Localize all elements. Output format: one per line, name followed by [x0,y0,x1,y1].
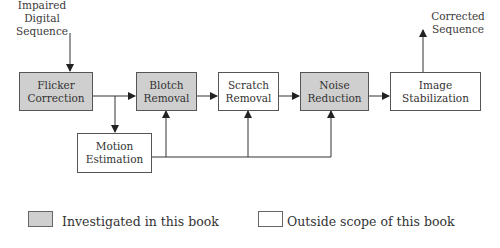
block-label-line: Image [402,79,469,92]
block-scratch-removal: ScratchRemoval [218,72,279,111]
block-image-stabilization: ImageStabilization [390,72,481,111]
input-label-line: Digital [14,12,70,25]
block-label-line: Stabilization [402,92,469,105]
block-label-line: Removal [144,92,190,105]
block-label-line: Estimation [86,153,144,166]
connector-arrows [0,0,500,248]
input-label-line: Sequence [14,25,70,38]
block-noise-reduction: NoiseReduction [300,72,369,111]
legend-swatch-outside [258,211,283,227]
block-label-line: Removal [226,92,272,105]
block-label-line: Correction [27,92,84,105]
block-motion-estimation: MotionEstimation [77,133,152,173]
block-blotch-removal: BlotchRemoval [136,72,197,111]
output-label-line: Sequence [428,23,488,36]
block-label-line: Blotch [144,79,190,92]
legend-label-investigated: Investigated in this book [62,214,219,229]
output-label: Corrected Sequence [428,10,488,36]
block-label-line: Noise [307,79,361,92]
output-label-line: Corrected [428,10,488,23]
legend-swatch-investigated [28,211,53,227]
block-label-line: Reduction [307,92,361,105]
block-flicker-correction: FlickerCorrection [19,72,93,111]
block-label-line: Scratch [226,79,272,92]
block-label-line: Motion [86,140,144,153]
input-label: Impaired Digital Sequence [14,0,70,38]
block-label-line: Flicker [27,79,84,92]
legend-label-outside: Outside scope of this book [287,214,455,229]
input-label-line: Impaired [14,0,70,12]
